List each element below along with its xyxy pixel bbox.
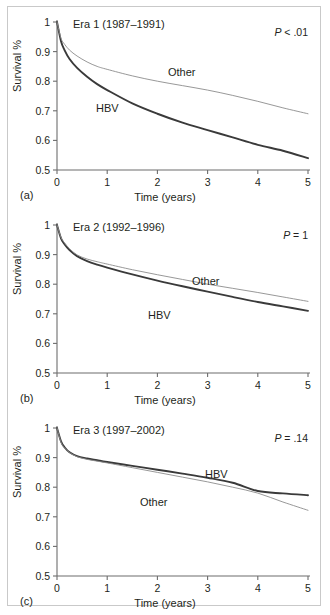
- y-tick-label: 0.9: [35, 452, 50, 464]
- x-tick-label: 4: [255, 582, 261, 594]
- x-tick-label: 2: [154, 176, 160, 188]
- x-tick-label: 2: [154, 582, 160, 594]
- series-line-hbv: [57, 22, 308, 158]
- series-label-other: Other: [192, 275, 220, 287]
- x-tick-label: 1: [104, 582, 110, 594]
- y-tick-label: 0.8: [35, 481, 50, 493]
- panel-c-xlabel: Time (years): [0, 597, 330, 609]
- y-tick-label: 0.7: [35, 511, 50, 523]
- panel-b-plot: 0.50.60.70.80.91012345HBVOther: [0, 207, 330, 412]
- x-tick-label: 4: [255, 176, 261, 188]
- y-tick-label: 0.9: [35, 46, 50, 58]
- y-tick-label: 1: [44, 16, 50, 28]
- x-tick-label: 4: [255, 379, 261, 391]
- panel-c-ylabel: Survival %: [11, 422, 23, 522]
- panel-a-letter: (a): [20, 189, 33, 201]
- series-line-hbv: [57, 428, 308, 495]
- y-tick-label: 0.5: [35, 164, 50, 176]
- panel-a: Era 1 (1987–1991) P < .01 0.50.60.70.80.…: [0, 4, 330, 209]
- x-tick-label: 2: [154, 379, 160, 391]
- panel-b-ylabel: Survival %: [11, 219, 23, 319]
- x-tick-label: 5: [305, 379, 311, 391]
- y-tick-label: 0.9: [35, 249, 50, 261]
- series-label-hbv: HBV: [148, 309, 171, 321]
- y-tick-label: 0.7: [35, 105, 50, 117]
- series-label-hbv: HBV: [96, 102, 119, 114]
- x-tick-label: 5: [305, 176, 311, 188]
- y-tick-label: 0.8: [35, 75, 50, 87]
- x-tick-label: 1: [104, 176, 110, 188]
- x-tick-label: 1: [104, 379, 110, 391]
- y-tick-label: 0.5: [35, 570, 50, 582]
- x-tick-label: 0: [54, 379, 60, 391]
- series-label-other: Other: [140, 496, 168, 508]
- panel-c-plot: 0.50.60.70.80.91012345HBVOther: [0, 410, 330, 615]
- series-line-hbv: [57, 225, 308, 311]
- panel-c: Era 3 (1997–2002) P = .14 0.50.60.70.80.…: [0, 410, 330, 615]
- y-tick-label: 1: [44, 422, 50, 434]
- y-tick-label: 0.6: [35, 134, 50, 146]
- x-tick-label: 0: [54, 582, 60, 594]
- panel-b: Era 2 (1992–1996) P = 1 0.50.60.70.80.91…: [0, 207, 330, 412]
- series-label-hbv: HBV: [205, 468, 228, 480]
- y-tick-label: 0.6: [35, 540, 50, 552]
- panel-b-xlabel: Time (years): [0, 394, 330, 406]
- y-tick-label: 1: [44, 219, 50, 231]
- y-tick-label: 0.8: [35, 278, 50, 290]
- y-tick-label: 0.6: [35, 337, 50, 349]
- x-tick-label: 3: [205, 582, 211, 594]
- series-line-other: [57, 428, 308, 510]
- panel-a-plot: 0.50.60.70.80.91012345HBVOther: [0, 4, 330, 209]
- y-tick-label: 0.5: [35, 367, 50, 379]
- panel-b-letter: (b): [20, 392, 33, 404]
- panel-c-letter: (c): [20, 595, 33, 607]
- x-tick-label: 0: [54, 176, 60, 188]
- x-tick-label: 5: [305, 582, 311, 594]
- x-tick-label: 3: [205, 379, 211, 391]
- figure-container: Era 1 (1987–1991) P < .01 0.50.60.70.80.…: [0, 0, 330, 615]
- series-label-other: Other: [168, 66, 196, 78]
- y-tick-label: 0.7: [35, 308, 50, 320]
- panel-a-xlabel: Time (years): [0, 191, 330, 203]
- panel-a-ylabel: Survival %: [11, 16, 23, 116]
- x-tick-label: 3: [205, 176, 211, 188]
